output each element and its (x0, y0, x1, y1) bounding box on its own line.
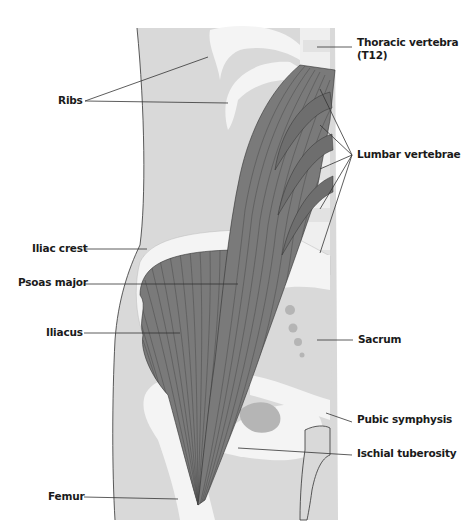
label-thoracic-vertebra: Thoracic vertebra (T12) (357, 36, 458, 62)
label-pubic-symphysis: Pubic symphysis (357, 413, 452, 426)
label-psoas-major: Psoas major (18, 276, 88, 289)
label-lumbar-vertebrae: Lumbar vertebrae (357, 148, 461, 161)
label-sacrum: Sacrum (358, 333, 401, 346)
label-ischial-tuberosity: Ischial tuberosity (357, 447, 456, 460)
label-iliac-crest: Iliac crest (32, 242, 88, 255)
label-femur: Femur (48, 490, 84, 503)
label-iliacus: Iliacus (46, 326, 83, 339)
label-ribs: Ribs (58, 94, 83, 107)
